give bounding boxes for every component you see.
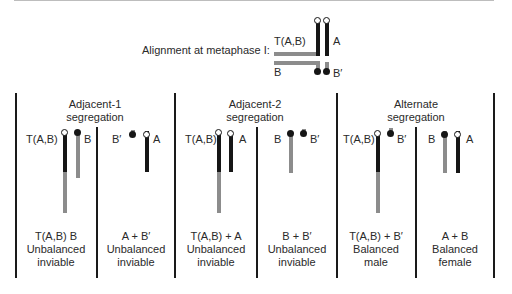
gamete-label: B′ bbox=[310, 133, 319, 146]
chromosome-b bbox=[289, 131, 293, 173]
gamete-label: A bbox=[153, 133, 160, 146]
gamete-label: T(A,B) bbox=[185, 133, 217, 146]
gamete-label: B′ bbox=[397, 133, 406, 146]
caption-line: Unbalanced bbox=[16, 243, 96, 256]
chromosome-a bbox=[325, 23, 329, 56]
centromere-open bbox=[215, 129, 222, 136]
caption-line: Balanced bbox=[415, 243, 495, 256]
label-a: A bbox=[333, 35, 340, 48]
gamete-caption: A + B Balanced female bbox=[415, 230, 495, 269]
label-tab: T(A,B) bbox=[274, 35, 306, 48]
tab-gray bbox=[376, 172, 380, 213]
centromere-b bbox=[314, 68, 321, 75]
centromere-filled bbox=[129, 131, 136, 138]
chromosome-a bbox=[229, 131, 233, 172]
caption-line: Unbalanced bbox=[96, 243, 176, 256]
caption-line: Unbalanced bbox=[257, 243, 337, 256]
centromere-a bbox=[323, 17, 330, 24]
centromere-filled bbox=[74, 129, 81, 136]
centromere-bprime bbox=[323, 68, 330, 75]
caption-line: Balanced bbox=[336, 243, 416, 256]
caption-line: inviable bbox=[16, 256, 96, 269]
caption-line: T(A,B) + B′ bbox=[336, 230, 416, 243]
label-bprime: B′ bbox=[333, 67, 342, 80]
metaphase-label: Alignment at metaphase I: bbox=[142, 44, 270, 57]
caption-line: inviable bbox=[176, 256, 256, 269]
tab-gray bbox=[63, 172, 67, 213]
chromosome-b bbox=[76, 131, 80, 178]
gamete-label: B bbox=[84, 133, 91, 146]
gamete-caption: B + B′ Unbalanced inviable bbox=[257, 230, 337, 269]
centromere-tab bbox=[314, 17, 321, 24]
chromosome-b bbox=[274, 61, 320, 65]
centromere-filled bbox=[387, 130, 394, 137]
tab-gray bbox=[217, 172, 221, 213]
tab-black bbox=[217, 131, 221, 172]
gamete-label: B bbox=[274, 133, 281, 146]
centromere-filled bbox=[287, 130, 294, 137]
centromere-open bbox=[143, 131, 150, 138]
caption-line: female bbox=[415, 256, 495, 269]
top-rule bbox=[14, 0, 494, 1]
caption-line: inviable bbox=[96, 256, 176, 269]
title-line: Alternate bbox=[356, 98, 476, 111]
tab-a-arm bbox=[316, 23, 320, 56]
gamete-label: B′ bbox=[112, 133, 121, 146]
title-line: Adjacent-1 bbox=[35, 98, 155, 111]
centromere-open bbox=[374, 130, 381, 137]
gamete-caption: T(A,B) B Unbalanced inviable bbox=[16, 230, 96, 269]
gamete-label: A bbox=[466, 133, 473, 146]
gamete-label: T(A,B) bbox=[343, 133, 375, 146]
tab-black bbox=[63, 131, 67, 172]
caption-line: A + B′ bbox=[96, 230, 176, 243]
gamete-caption: T(A,B) + B′ Balanced male bbox=[336, 230, 416, 269]
label-b: B bbox=[274, 66, 281, 79]
caption-line: Unbalanced bbox=[176, 243, 256, 256]
centromere-open bbox=[61, 129, 68, 136]
gamete-caption: A + B′ Unbalanced inviable bbox=[96, 230, 176, 269]
caption-line: B + B′ bbox=[257, 230, 337, 243]
panel-title: Adjacent-2 segregation bbox=[195, 98, 315, 124]
caption-line: male bbox=[336, 256, 416, 269]
gamete-label: B bbox=[428, 133, 435, 146]
caption-line: A + B bbox=[415, 230, 495, 243]
title-line: segregation bbox=[35, 111, 155, 124]
panel-title: Adjacent-1 segregation bbox=[35, 98, 155, 124]
gamete-label: A bbox=[239, 133, 246, 146]
caption-line: T(A,B) B bbox=[16, 230, 96, 243]
title-line: segregation bbox=[356, 111, 476, 124]
caption-line: inviable bbox=[257, 256, 337, 269]
centromere-filled bbox=[441, 131, 448, 138]
caption-line: T(A,B) + A bbox=[176, 230, 256, 243]
centromere-open bbox=[227, 130, 234, 137]
centromere-filled bbox=[300, 130, 307, 137]
title-line: segregation bbox=[195, 111, 315, 124]
gamete-caption: T(A,B) + A Unbalanced inviable bbox=[176, 230, 256, 269]
centromere-open bbox=[454, 131, 461, 138]
gamete-label: T(A,B) bbox=[26, 133, 58, 146]
title-line: Adjacent-2 bbox=[195, 98, 315, 111]
tab-black bbox=[376, 131, 380, 172]
tab-b-arm bbox=[274, 52, 320, 56]
panel-title: Alternate segregation bbox=[356, 98, 476, 124]
